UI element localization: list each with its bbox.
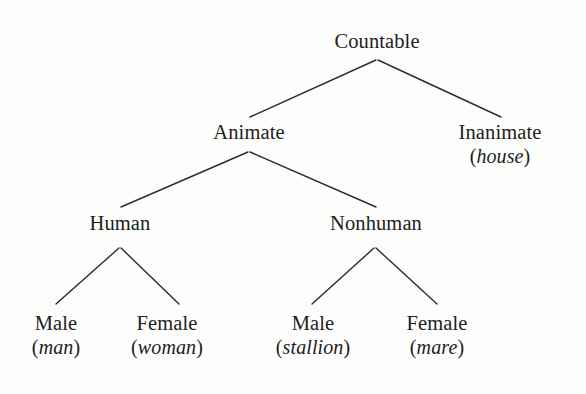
example-word-nonhuman-male: stallion <box>283 336 344 358</box>
tree-node-label-human-male: Male <box>32 312 80 335</box>
tree-edge-countable-inanimate <box>378 60 501 117</box>
example-word-human-female: woman <box>138 336 196 358</box>
tree-node-nonhuman: Nonhuman <box>330 212 422 235</box>
paren-close-human-female: ) <box>196 336 203 358</box>
tree-node-example-human-female: (woman) <box>131 336 203 358</box>
example-word-nonhuman-female: mare <box>417 336 458 358</box>
tree-node-label-animate: Animate <box>213 121 284 144</box>
paren-open-human-male: ( <box>32 336 39 358</box>
tree-edge-nonhuman-male-edge <box>312 248 374 304</box>
tree-node-label-nonhuman-female: Female <box>407 312 468 335</box>
tree-edge-animate-nonhuman <box>250 152 376 207</box>
tree-node-example-nonhuman-female: (mare) <box>407 336 468 358</box>
tree-node-nonhuman-female: Female(mare) <box>407 312 468 358</box>
paren-open-inanimate: ( <box>470 145 477 167</box>
tree-node-label-nonhuman: Nonhuman <box>330 212 422 235</box>
tree-edge-animate-human <box>121 152 248 207</box>
tree-node-label-inanimate: Inanimate <box>459 121 542 144</box>
tree-edge-human-male-edge <box>56 248 119 304</box>
tree-node-human-female: Female(woman) <box>131 312 203 358</box>
tree-node-label-human-female: Female <box>131 312 203 335</box>
tree-edge-human-female-edge <box>121 248 179 304</box>
tree-node-label-countable: Countable <box>334 30 419 53</box>
tree-node-example-nonhuman-male: (stallion) <box>276 336 350 358</box>
tree-node-example-human-male: (man) <box>32 336 80 358</box>
paren-close-inanimate: ) <box>524 145 531 167</box>
paren-close-nonhuman-female: ) <box>457 336 464 358</box>
tree-diagram: CountableAnimateInanimate(house)HumanNon… <box>0 0 586 394</box>
paren-close-nonhuman-male: ) <box>343 336 350 358</box>
paren-open-nonhuman-male: ( <box>276 336 283 358</box>
example-word-inanimate: house <box>476 145 523 167</box>
tree-node-animate: Animate <box>213 121 284 144</box>
paren-open-human-female: ( <box>131 336 138 358</box>
tree-node-human-male: Male(man) <box>32 312 80 358</box>
tree-node-inanimate: Inanimate(house) <box>459 121 542 167</box>
example-word-human-male: man <box>39 336 74 358</box>
tree-node-human: Human <box>90 212 151 235</box>
tree-edge-nonhuman-female-edge <box>376 248 437 304</box>
paren-close-human-male: ) <box>73 336 80 358</box>
tree-node-countable: Countable <box>334 30 419 53</box>
tree-edge-countable-animate <box>250 60 376 117</box>
tree-node-example-inanimate: (house) <box>459 145 542 167</box>
tree-node-label-human: Human <box>90 212 151 235</box>
tree-node-label-nonhuman-male: Male <box>276 312 350 335</box>
tree-node-nonhuman-male: Male(stallion) <box>276 312 350 358</box>
